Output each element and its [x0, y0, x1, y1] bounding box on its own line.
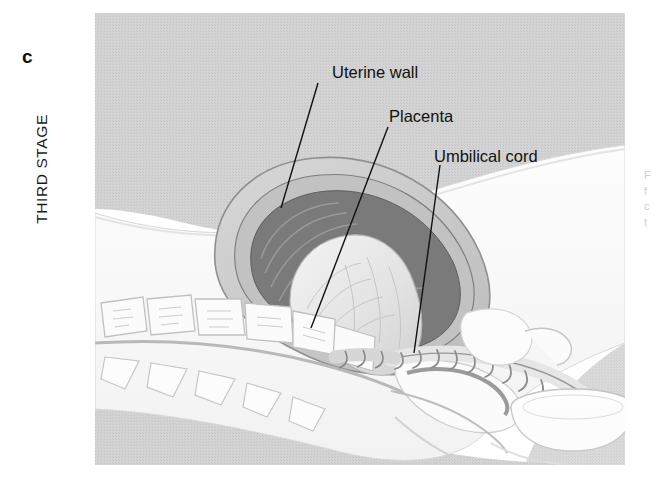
side-caption-line-4: t [644, 215, 666, 231]
figure-page: c THIRD STAGE [0, 0, 666, 490]
side-caption-line-1: F [644, 168, 666, 184]
callout-label-umbilical-cord: Umbilical cord [434, 148, 538, 165]
stage-label: THIRD STAGE [33, 89, 51, 249]
side-caption-line-3: c [644, 199, 666, 215]
side-caption-line-2: f [644, 184, 666, 200]
callout-label-uterine-wall: Uterine wall [332, 64, 418, 81]
callout-label-placenta: Placenta [389, 108, 453, 125]
side-caption-cropped: F f c t [644, 168, 666, 230]
panel-letter: c [22, 46, 33, 68]
